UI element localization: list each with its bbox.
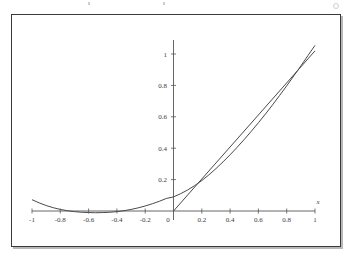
- x-tick-label: 0.8: [282, 216, 291, 224]
- y-tick-label: 0.2: [158, 176, 167, 184]
- x-tick-label: 0.4: [226, 216, 235, 224]
- x-tick-label: -0.8: [55, 216, 67, 224]
- scan-artifact-strip: [0, 0, 351, 10]
- x-tick-label: 1: [313, 216, 317, 224]
- y-tick-label: 0.6: [158, 113, 167, 121]
- x-tick-label: -0.6: [83, 216, 95, 224]
- plot-canvas: -1 -0.8 -0.6 -0.4 -0.2 0 0.2 0.4 0.6 0.8…: [12, 15, 340, 246]
- x-tick-label: -1: [29, 216, 35, 224]
- y-tick-label: 1: [164, 51, 168, 59]
- figure-container: -1 -0.8 -0.6 -0.4 -0.2 0 0.2 0.4 0.6 0.8…: [0, 0, 351, 267]
- y-tick-label: 0.8: [158, 82, 167, 90]
- y-tick-label: 0.4: [158, 145, 167, 153]
- x-tick-label: -0.4: [111, 216, 123, 224]
- straight-line-series-path: [174, 51, 316, 211]
- x-axis-name-label: x: [315, 198, 320, 206]
- x-tick-label: -0.2: [140, 216, 152, 224]
- x-tick-label: 0.6: [254, 216, 263, 224]
- x-tick-label: 0.2: [197, 216, 206, 224]
- scan-speck: [163, 2, 165, 5]
- x-tick-label-zero: 0: [166, 216, 170, 224]
- scan-speck: [88, 2, 90, 5]
- y-axis-tick-labels: 0.2 0.4 0.6 0.8 1: [158, 51, 167, 185]
- scan-speck: [333, 3, 339, 9]
- plot-frame: -1 -0.8 -0.6 -0.4 -0.2 0 0.2 0.4 0.6 0.8…: [11, 14, 341, 247]
